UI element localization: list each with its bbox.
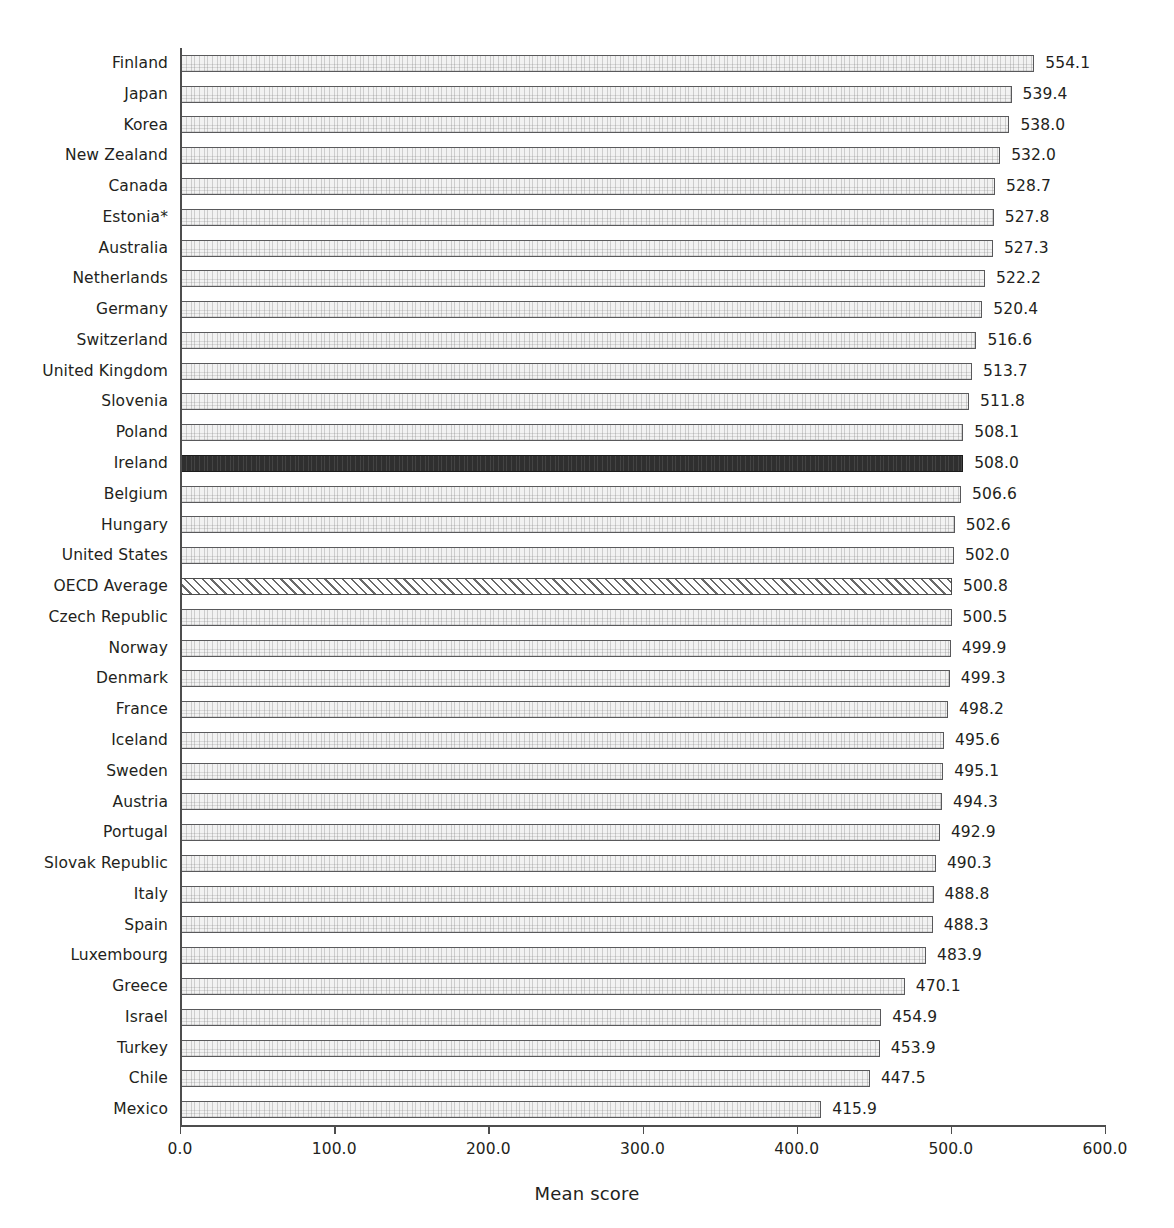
bar-value-label: 488.3 (944, 910, 989, 941)
category-label: Poland (0, 417, 168, 448)
bar-row: New Zealand532.0 (180, 140, 1105, 171)
bar[interactable] (180, 978, 905, 995)
x-axis-tick (643, 1125, 644, 1134)
category-label: Ireland (0, 448, 168, 479)
bar-row: United States502.0 (180, 540, 1105, 571)
category-label: Germany (0, 294, 168, 325)
bar-value-label: 453.9 (891, 1033, 936, 1064)
bar[interactable] (180, 640, 951, 657)
bar[interactable] (180, 1070, 870, 1087)
bar[interactable] (180, 547, 954, 564)
x-axis-tick (797, 1125, 798, 1134)
category-label: Mexico (0, 1094, 168, 1125)
bar[interactable] (180, 455, 963, 472)
bar[interactable] (180, 86, 1012, 103)
bar-row: Israel454.9 (180, 1002, 1105, 1033)
bar-value-label: 415.9 (832, 1094, 877, 1125)
x-axis-tick (488, 1125, 489, 1134)
category-label: Italy (0, 879, 168, 910)
bar[interactable] (180, 332, 976, 349)
bar-value-label: 495.6 (955, 725, 1000, 756)
bar-row: Iceland495.6 (180, 725, 1105, 756)
category-label: Czech Republic (0, 602, 168, 633)
bar[interactable] (180, 147, 1000, 164)
bar[interactable] (180, 701, 948, 718)
bar-row: Chile447.5 (180, 1063, 1105, 1094)
category-label: Netherlands (0, 263, 168, 294)
bar[interactable] (180, 516, 955, 533)
bar-row: Switzerland516.6 (180, 325, 1105, 356)
bar[interactable] (180, 855, 936, 872)
bar-value-label: 500.5 (963, 602, 1008, 633)
bar[interactable] (180, 116, 1009, 133)
bar[interactable] (180, 240, 993, 257)
bar-value-label: 506.6 (972, 479, 1017, 510)
bar-row: Germany520.4 (180, 294, 1105, 325)
bar-row: Norway499.9 (180, 633, 1105, 664)
bar-value-label: 490.3 (947, 848, 992, 879)
bar[interactable] (180, 1101, 821, 1118)
bar[interactable] (180, 947, 926, 964)
bar[interactable] (180, 393, 969, 410)
bar[interactable] (180, 301, 982, 318)
bar-row: Ireland508.0 (180, 448, 1105, 479)
x-axis-title: Mean score (0, 1183, 1174, 1204)
bar-value-label: 494.3 (953, 787, 998, 818)
bar[interactable] (180, 1009, 881, 1026)
bar[interactable] (180, 824, 940, 841)
bar[interactable] (180, 609, 952, 626)
bar-value-label: 488.8 (945, 879, 990, 910)
bar-row: Sweden495.1 (180, 756, 1105, 787)
bar-value-label: 500.8 (963, 571, 1008, 602)
category-label: Israel (0, 1002, 168, 1033)
bar[interactable] (180, 209, 994, 226)
bar-row: Netherlands522.2 (180, 263, 1105, 294)
bar[interactable] (180, 270, 985, 287)
category-label: Norway (0, 633, 168, 664)
bar[interactable] (180, 886, 934, 903)
category-label: Slovak Republic (0, 848, 168, 879)
bar-value-label: 502.0 (965, 540, 1010, 571)
bar-row: Korea538.0 (180, 110, 1105, 141)
bar-row: United Kingdom513.7 (180, 356, 1105, 387)
category-label: Portugal (0, 817, 168, 848)
category-label: France (0, 694, 168, 725)
bar[interactable] (180, 424, 963, 441)
category-label: Denmark (0, 663, 168, 694)
bar-row: Austria494.3 (180, 787, 1105, 818)
bar[interactable] (180, 732, 944, 749)
bar[interactable] (180, 486, 961, 503)
category-label: Chile (0, 1063, 168, 1094)
bar[interactable] (180, 578, 952, 595)
bar-value-label: 502.6 (966, 510, 1011, 541)
x-axis-tick-label: 200.0 (466, 1140, 511, 1158)
bar[interactable] (180, 763, 943, 780)
bar-value-label: 528.7 (1006, 171, 1051, 202)
category-label: Austria (0, 787, 168, 818)
bar-value-label: 498.2 (959, 694, 1004, 725)
bar-value-label: 508.0 (974, 448, 1019, 479)
bar-row: Finland554.1 (180, 48, 1105, 79)
category-label: Iceland (0, 725, 168, 756)
bar-row: Spain488.3 (180, 910, 1105, 941)
bar-value-label: 538.0 (1020, 110, 1065, 141)
bar[interactable] (180, 793, 942, 810)
bar[interactable] (180, 670, 950, 687)
bar-row: Belgium506.6 (180, 479, 1105, 510)
bar-row: Slovenia511.8 (180, 386, 1105, 417)
x-axis-tick (334, 1125, 335, 1134)
bar-row: Hungary502.6 (180, 510, 1105, 541)
bar[interactable] (180, 363, 972, 380)
bar-row: Poland508.1 (180, 417, 1105, 448)
bar-value-label: 554.1 (1045, 48, 1090, 79)
bar[interactable] (180, 916, 933, 933)
x-axis-tick (1105, 1125, 1106, 1134)
x-axis-tick (180, 1125, 181, 1134)
bar-value-label: 470.1 (916, 971, 961, 1002)
bar[interactable] (180, 1040, 880, 1057)
bar[interactable] (180, 178, 995, 195)
bar[interactable] (180, 55, 1034, 72)
bar-row: Luxembourg483.9 (180, 940, 1105, 971)
bar-row: Australia527.3 (180, 233, 1105, 264)
category-label: Korea (0, 110, 168, 141)
